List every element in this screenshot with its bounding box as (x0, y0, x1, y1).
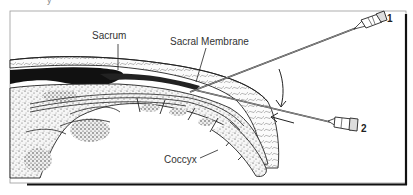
label-sacral-membrane: Sacral Membrane (170, 37, 249, 47)
sacral-puncture-illustration (0, 0, 413, 195)
curved-arrow-down (276, 69, 286, 107)
needle-2-number: 2 (361, 124, 367, 134)
needle-1-number: 1 (387, 14, 393, 24)
label-sacrum: Sacrum (92, 31, 126, 41)
label-coccyx: Coccyx (164, 155, 197, 165)
needle-1 (190, 11, 387, 92)
